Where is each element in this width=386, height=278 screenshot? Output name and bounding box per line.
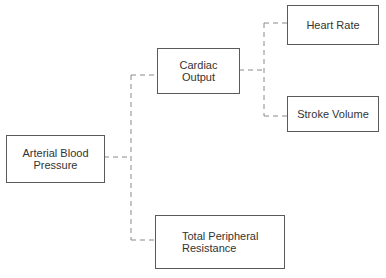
- node-heart-rate: Heart Rate: [287, 5, 379, 45]
- node-stroke-volume: Stroke Volume: [287, 96, 379, 132]
- node-cardiac-output: Cardiac Output: [157, 48, 240, 94]
- node-total-peripheral-resistance: Total Peripheral Resistance: [155, 215, 285, 269]
- node-arterial-blood-pressure: Arterial Blood Pressure: [6, 135, 105, 183]
